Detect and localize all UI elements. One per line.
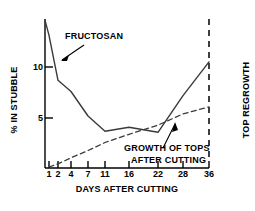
fructosan-series-label: FRUCTOSAN (65, 31, 123, 41)
y-axis-title: % IN STUBBLE (9, 55, 19, 145)
top-regrowth-label: TOP REGROWTH (241, 45, 251, 155)
fructosan-leader-line (62, 45, 84, 60)
x-tick-label-36: 36 (199, 169, 219, 179)
x-tick-label-11: 11 (95, 169, 115, 179)
growth-of-tops-series-label-line1: GROWTH OF TOPS (124, 143, 210, 153)
chart-figure: % IN STUBBLE DAYS AFTER CUTTING TOP REGR… (0, 0, 255, 211)
x-tick-label-28: 28 (173, 169, 193, 179)
x-tick-label-16: 16 (119, 169, 139, 179)
chart-plot-area (0, 0, 255, 211)
y-tick-label-10: 10 (23, 62, 43, 72)
x-tick-label-22: 22 (148, 169, 168, 179)
x-axis-title: DAYS AFTER CUTTING (52, 184, 202, 194)
growth-of-tops-series-label-line2: AFTER CUTTING (131, 155, 206, 165)
y-tick-label-5: 5 (23, 113, 43, 123)
